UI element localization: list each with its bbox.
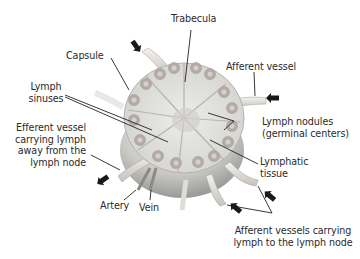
label-afferent-vessel: Afferent vessel [226,61,296,73]
label-lymphatic-tissue-line1: Lymphatic [260,156,308,168]
label-lymph-sinuses-line2: sinuses [26,93,66,105]
label-trabecula: Trabecula [171,13,216,25]
label-efferent-line1: Efferent vessel [2,122,86,134]
node-cut-face [124,63,244,174]
label-afferent-vessels-line2: lymph to the lymph node [226,237,360,249]
label-efferent-line2: carrying lymph [2,134,86,146]
lymph-node-diagram: Trabecula Capsule Afferent vessel Lymph … [0,0,360,259]
arrow-icon-efferent-left [94,172,110,188]
label-capsule: Capsule [66,50,104,62]
label-vein: Vein [139,202,159,214]
label-lymphatic-tissue-line2: tissue [260,168,308,180]
label-lymph-sinuses-line1: Lymph [26,81,66,93]
label-efferent-line4: lymph node [2,157,86,169]
label-lymphatic-tissue: Lymphatic tissue [260,156,308,179]
label-lymph-sinuses: Lymph sinuses [26,81,66,104]
label-lymph-nodules: Lymph nodules (germinal centers) [262,116,349,139]
label-afferent-vessels: Afferent vessels carrying lymph to the l… [226,225,360,248]
label-lymph-nodules-line2: (germinal centers) [262,128,349,140]
arrow-icon-afferent-right [266,93,279,103]
arrow-icon-afferent-bottom-right [261,188,277,204]
label-lymph-nodules-line1: Lymph nodules [262,116,349,128]
label-artery: Artery [100,200,129,212]
label-efferent-vessel: Efferent vessel carrying lymph away from… [2,122,86,168]
label-efferent-line3: away from the [2,145,86,157]
label-afferent-vessels-line1: Afferent vessels carrying [226,225,360,237]
